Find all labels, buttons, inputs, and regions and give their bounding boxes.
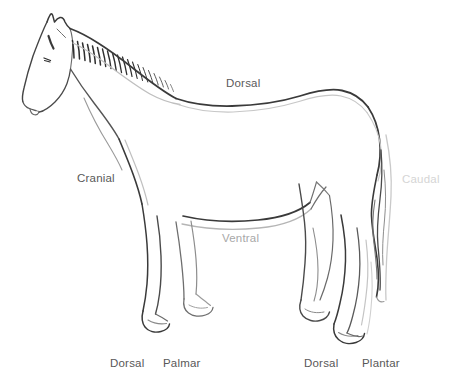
label-ventral: Ventral bbox=[222, 232, 259, 245]
horse-hindleg-far-front bbox=[334, 215, 346, 324]
horse-tail-inner-3 bbox=[383, 170, 386, 265]
horse-foreleg-far-back bbox=[191, 221, 197, 294]
horse-stifle bbox=[311, 187, 326, 209]
horse-muzzle bbox=[23, 102, 36, 111]
horse-pastern-near bbox=[156, 314, 168, 321]
label-cranial: Cranial bbox=[77, 172, 115, 185]
horse-browline bbox=[49, 36, 54, 49]
horse-eye-lower-lid bbox=[45, 61, 51, 63]
horse-forearm-front-light bbox=[125, 140, 148, 205]
horse-crest-topline bbox=[70, 29, 176, 99]
horse-cheek bbox=[70, 29, 73, 70]
horse-foreleg-near-front bbox=[142, 204, 148, 311]
horse-tail-tip bbox=[377, 297, 385, 302]
horse-foreleg-near-back bbox=[156, 216, 162, 314]
horse-flank-up bbox=[310, 182, 317, 203]
horse-ears-and-poll bbox=[47, 14, 70, 29]
horse-hindleg-near-hock bbox=[320, 196, 333, 301]
horse-forelock bbox=[57, 29, 66, 38]
horse-tail-outer-light bbox=[386, 135, 392, 300]
horse-gaskin-near bbox=[313, 228, 318, 301]
horse-back-topline-light bbox=[178, 95, 367, 112]
horse-line-drawing bbox=[0, 0, 457, 382]
horse-foreleg-far-front bbox=[176, 222, 184, 299]
horse-belly-dark bbox=[183, 203, 310, 222]
anatomy-figure: Dorsal Cranial Caudal Ventral Dorsal Pal… bbox=[0, 0, 457, 382]
horse-hindleg-far-back bbox=[347, 228, 360, 333]
horse-face-profile bbox=[22, 22, 47, 102]
horse-pastern-far bbox=[196, 294, 211, 306]
horse-hindleg-far-light-1 bbox=[362, 240, 368, 325]
horse-hindleg-near-front bbox=[299, 184, 306, 300]
label-plantar: Plantar bbox=[362, 357, 400, 370]
label-dorsal-hindlimb: Dorsal bbox=[304, 357, 338, 370]
horse-hoof-far-coronet bbox=[189, 305, 208, 308]
horse-back-topline bbox=[176, 90, 368, 107]
horse-chest-front bbox=[71, 69, 120, 139]
horse-jaw-line bbox=[39, 69, 71, 112]
label-dorsal-forelimb: Dorsal bbox=[110, 357, 144, 370]
horse-hip-crease bbox=[317, 182, 330, 196]
horse-mane bbox=[73, 41, 174, 92]
label-caudal: Caudal bbox=[402, 173, 440, 186]
horse-hoof-hind-near-coronet bbox=[305, 309, 324, 313]
label-palmar: Palmar bbox=[163, 357, 201, 370]
label-dorsal-top: Dorsal bbox=[226, 77, 260, 90]
horse-hoof-near-coronet bbox=[148, 320, 167, 324]
horse-hoof-hind-near bbox=[300, 300, 330, 321]
horse-forearm-front bbox=[119, 139, 142, 204]
